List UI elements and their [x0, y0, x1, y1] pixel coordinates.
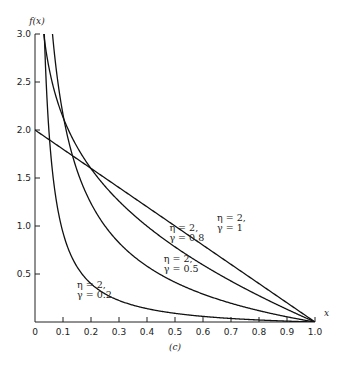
y-tick-label: 3.0 [17, 29, 32, 39]
x-tick-label: 0.8 [252, 327, 267, 337]
plot-area: 00.10.20.30.40.50.60.70.80.91.00.51.01.5… [0, 0, 343, 367]
curve-gamma-0.8 [36, 29, 315, 322]
series-label: γ = 0.2 [77, 289, 112, 300]
series-label: γ = 1 [217, 222, 243, 233]
x-tick-label: 0.2 [84, 327, 98, 337]
y-tick-label: 0.5 [17, 269, 31, 279]
series-label: γ = 0.5 [164, 263, 199, 274]
chart: 00.10.20.30.40.50.60.70.80.91.00.51.01.5… [0, 0, 343, 367]
x-tick-label: 0.3 [112, 327, 126, 337]
x-axis-label: x [324, 308, 329, 318]
series-label: γ = 0.8 [169, 232, 204, 243]
y-tick-label: 1.5 [17, 173, 31, 183]
x-tick-label: 0.5 [168, 327, 182, 337]
x-tick-label: 0.4 [140, 327, 155, 337]
y-tick-label: 2.0 [17, 125, 32, 135]
x-tick-label: 1.0 [308, 327, 323, 337]
curve-gamma-0.5 [36, 29, 315, 322]
x-tick-label: 0.6 [196, 327, 211, 337]
curve-gamma-0.2 [36, 29, 315, 322]
x-tick-label: 0.1 [56, 327, 70, 337]
x-tick-label: 0.9 [280, 327, 295, 337]
x-tick-label: 0 [32, 327, 38, 337]
y-tick-label: 1.0 [17, 221, 32, 231]
y-tick-label: 2.5 [17, 77, 31, 87]
caption: (c) [169, 342, 182, 352]
x-tick-label: 0.7 [224, 327, 238, 337]
y-axis-label: f(x) [28, 16, 45, 26]
